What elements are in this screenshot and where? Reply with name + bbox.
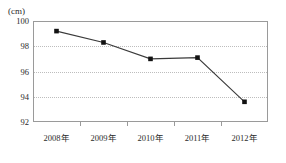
- y-tick-label: 96: [21, 67, 30, 77]
- x-tick-mark: [80, 122, 81, 126]
- y-tick-label: 92: [21, 117, 30, 127]
- x-tick-label: 2010年: [138, 131, 164, 143]
- x-tick-label: 2011年: [185, 131, 211, 143]
- plot-area: [33, 21, 268, 122]
- x-tick-mark: [174, 122, 175, 126]
- gridline-y: [34, 46, 267, 47]
- x-tick-label: 2009年: [91, 131, 117, 143]
- x-tick-mark: [127, 122, 128, 126]
- gridline-y: [34, 72, 267, 73]
- line-chart: (cm) 10098969492 2008年2009年2010年2011年201…: [0, 0, 286, 163]
- y-tick-label: 98: [21, 41, 30, 51]
- x-tick-mark: [221, 122, 222, 126]
- y-axis-unit-label: (cm): [8, 6, 25, 16]
- gridline-y: [34, 97, 267, 98]
- y-tick-label: 94: [21, 92, 30, 102]
- x-tick-label: 2008年: [44, 131, 70, 143]
- y-tick-label: 100: [16, 16, 29, 26]
- x-tick-label: 2012年: [232, 131, 258, 143]
